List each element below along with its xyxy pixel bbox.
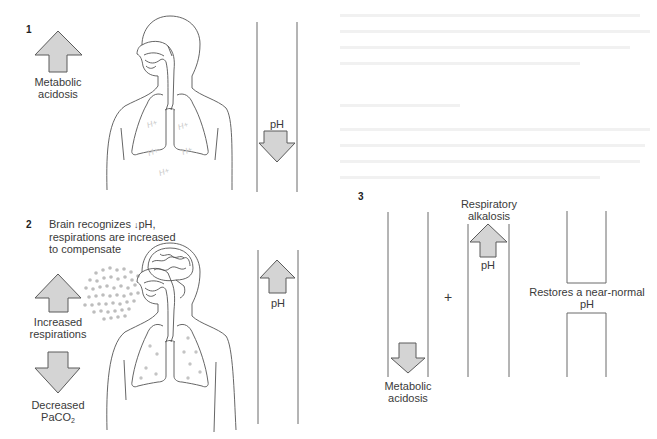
hydrogen-ions: H+ H+ H+ H+ H+ — [146, 118, 194, 178]
label-line-2: acidosis — [384, 392, 431, 404]
subscript-2: 2 — [71, 417, 75, 424]
svg-text:H+: H+ — [147, 146, 160, 158]
ph-up-arrow-icon — [260, 260, 295, 293]
svg-text:H+: H+ — [177, 120, 190, 132]
caption-prefix: Brain recognizes — [49, 218, 134, 230]
caption-line-1: Brain recognizes ↓pH, — [49, 218, 176, 231]
panel-1: H+ H+ H+ H+ H+ — [35, 16, 297, 192]
label-line-1: Increased — [30, 316, 87, 328]
acid-base-compensation-diagram: H+ H+ H+ H+ H+ — [0, 0, 657, 439]
result-column-bottom — [567, 313, 606, 377]
decreased-paco2-label: Decreased PaCO2 — [31, 399, 84, 427]
svg-text:H+: H+ — [158, 166, 171, 178]
ph-label: pH — [271, 297, 285, 309]
lung-co2-dots — [139, 336, 201, 379]
ph-label: pH — [481, 259, 495, 271]
svg-text:H+: H+ — [146, 118, 159, 130]
label-line-1: Metabolic — [34, 76, 81, 88]
increased-respirations-up-arrow-icon — [35, 274, 81, 312]
decreased-paco2-down-arrow-icon — [35, 352, 80, 393]
label-line-1: Respiratory — [461, 198, 517, 210]
ph-down-arrow-icon — [259, 131, 295, 162]
result-column-top — [567, 211, 606, 283]
label-line-2: PaCO2 — [31, 411, 84, 427]
label-line-2: respirations — [30, 328, 87, 340]
label-line-1: Restores a near-normal — [529, 286, 645, 298]
caption-suffix: pH, — [139, 218, 156, 230]
paco-text: PaCO — [41, 411, 71, 423]
metabolic-acidosis-label: Metabolic acidosis — [34, 76, 81, 100]
human-respiratory-figure-icon — [107, 16, 232, 190]
human-respiratory-figure-with-brain-icon — [107, 243, 236, 432]
panel-1-number: 1 — [26, 24, 32, 35]
label-line-2: acidosis — [34, 88, 81, 100]
metabolic-acidosis-down-arrow-icon — [391, 343, 425, 373]
panel-2-number: 2 — [26, 219, 32, 230]
exhaled-co2-dots — [83, 266, 140, 321]
metabolic-acidosis-label: Metabolic acidosis — [384, 380, 431, 404]
brain-caption: Brain recognizes ↓pH, respirations are i… — [49, 218, 176, 255]
label-line-2: alkalosis — [461, 210, 517, 222]
respiratory-alkalosis-up-arrow-icon — [470, 224, 507, 257]
label-line-2: pH — [529, 298, 645, 310]
label-line-1: Metabolic — [384, 380, 431, 392]
metabolic-acidosis-up-arrow-icon — [35, 31, 82, 72]
restores-near-normal-ph-label: Restores a near-normal pH — [529, 286, 645, 310]
respiratory-alkalosis-label: Respiratory alkalosis — [461, 198, 517, 222]
label-line-1: Decreased — [31, 399, 84, 411]
increased-respirations-label: Increased respirations — [30, 316, 87, 340]
caption-line-2: respirations are increased — [49, 231, 176, 243]
ph-label: pH — [270, 118, 284, 130]
panel-3-number: 3 — [358, 191, 364, 202]
plus-operator: + — [444, 291, 452, 303]
caption-line-3: to compensate — [49, 243, 176, 255]
svg-text:H+: H+ — [181, 145, 194, 157]
